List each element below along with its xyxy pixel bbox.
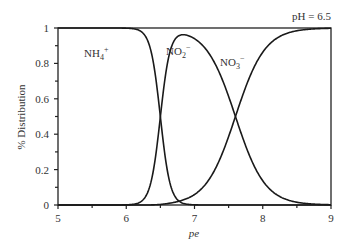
x-tick-label: 7 xyxy=(192,212,198,224)
x-tick-label: 9 xyxy=(328,212,334,224)
x-tick-label: 6 xyxy=(124,212,130,224)
y-tick-label: 0.8 xyxy=(35,57,49,69)
curve-label-nh4: NH4+ xyxy=(84,45,109,62)
y-axis-title: % Distribution xyxy=(15,84,27,150)
y-tick-label: 0.2 xyxy=(35,164,49,176)
y-tick-label: 0.4 xyxy=(35,128,49,140)
y-tick-label: 0.6 xyxy=(35,93,49,105)
ph-annotation: pH = 6.5 xyxy=(292,10,331,22)
x-axis-title: pe xyxy=(188,227,200,239)
distribution-chart: 5678900.20.40.60.81pe% DistributionpH = … xyxy=(0,0,349,252)
y-tick-label: 1 xyxy=(44,22,50,34)
curve-label-no2: NO2− xyxy=(166,43,191,60)
curve-label-no3: NO3− xyxy=(220,54,245,71)
chart-labels: NH4+NO2−NO3− xyxy=(84,43,245,71)
x-tick-label: 8 xyxy=(260,212,266,224)
x-tick-label: 5 xyxy=(55,212,61,224)
y-tick-label: 0 xyxy=(44,199,50,211)
